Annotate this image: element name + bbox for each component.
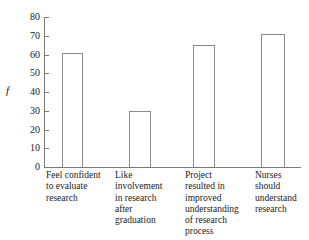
y-axis-tick-label: 60 bbox=[20, 50, 40, 60]
y-axis-tick-mark bbox=[44, 111, 49, 112]
x-axis-category-label: Like involvement in research after gradu… bbox=[115, 170, 185, 226]
bar-chart: f 01020304050607080 Feel confident to ev… bbox=[0, 0, 309, 240]
y-axis-tick-mark bbox=[44, 130, 49, 131]
y-axis-tick-mark bbox=[44, 36, 49, 37]
y-axis-tick-label: 20 bbox=[20, 125, 40, 135]
y-axis-tick-label: 30 bbox=[20, 106, 40, 116]
x-axis-line bbox=[44, 167, 301, 168]
bar bbox=[62, 53, 83, 167]
bar bbox=[193, 45, 215, 167]
y-axis-tick-mark bbox=[44, 73, 49, 74]
x-axis-category-label: Nurses should understand research bbox=[255, 170, 309, 215]
y-axis-tick-label: 40 bbox=[20, 87, 40, 97]
y-axis-label: f bbox=[6, 85, 9, 96]
y-axis-tick-mark bbox=[44, 55, 49, 56]
y-axis-tick-label: 70 bbox=[20, 31, 40, 41]
y-axis-tick-mark bbox=[44, 92, 49, 93]
y-axis-tick-mark bbox=[44, 148, 49, 149]
y-axis-tick-mark bbox=[44, 17, 49, 18]
y-axis-tick-label: 80 bbox=[20, 12, 40, 22]
x-axis-category-label: Project resulted in improved understandi… bbox=[185, 170, 257, 238]
y-axis-tick-label: 10 bbox=[20, 143, 40, 153]
bar bbox=[261, 34, 285, 167]
x-axis-category-label: Feel confident to evaluate research bbox=[46, 170, 118, 204]
y-axis-tick-label: 50 bbox=[20, 68, 40, 78]
bar bbox=[129, 111, 151, 167]
y-axis-tick-label: 0 bbox=[20, 162, 40, 172]
